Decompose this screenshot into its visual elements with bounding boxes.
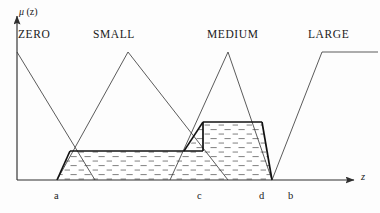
set-label-medium: MEDIUM (207, 28, 259, 40)
x-tick-label-d: d (259, 190, 264, 201)
set-label-zero: ZERO (18, 28, 50, 40)
mu-argument: (z) (27, 6, 38, 17)
y-axis-label: μ (z) (19, 6, 38, 17)
curve-zero (17, 52, 95, 180)
curve-large (272, 52, 378, 180)
x-axis-label: z (361, 171, 365, 182)
set-label-large: LARGE (308, 28, 349, 40)
x-tick-label-a: a (54, 190, 59, 201)
x-tick-label-c: c (197, 190, 202, 201)
x-tick-label-b: b (288, 190, 293, 201)
set-label-small: SMALL (93, 28, 135, 40)
fuzzy-membership-chart: μ (z) z ZERO SMALL MEDIUM LARGE a c d b (0, 0, 380, 213)
